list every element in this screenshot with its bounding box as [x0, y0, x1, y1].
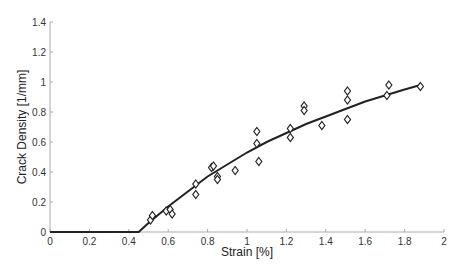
x-tick-label: 0.2: [82, 236, 96, 247]
data-point-diamond-icon: [344, 96, 350, 104]
x-tick-label: 1.2: [279, 236, 293, 247]
data-point-diamond-icon: [386, 81, 392, 89]
fit-curve: [50, 85, 420, 232]
y-tick-label: 1.4: [32, 17, 46, 28]
y-axis-label: Crack Density [1/mm]: [15, 70, 29, 185]
x-tick-label: 1.6: [358, 236, 372, 247]
x-tick-label: 1.4: [319, 236, 333, 247]
axes: 00.20.40.60.811.21.41.61.8200.20.40.60.8…: [32, 17, 447, 248]
y-tick-label: 1: [40, 77, 46, 88]
x-tick-label: 1.8: [398, 236, 412, 247]
x-tick-label: 0.4: [122, 236, 136, 247]
data-points: [147, 81, 423, 224]
data-point-diamond-icon: [193, 191, 199, 199]
y-tick-label: 0.2: [32, 197, 46, 208]
data-point-diamond-icon: [232, 167, 238, 175]
y-tick-label: 1.2: [32, 47, 46, 58]
data-point-diamond-icon: [287, 134, 293, 142]
data-point-diamond-icon: [319, 122, 325, 130]
data-point-diamond-icon: [384, 92, 390, 100]
data-point-diamond-icon: [344, 87, 350, 95]
data-point-diamond-icon: [344, 116, 350, 124]
y-tick-label: 0.6: [32, 137, 46, 148]
x-tick-label: 0: [47, 236, 53, 247]
chart: 00.20.40.60.811.21.41.61.8200.20.40.60.8…: [0, 0, 465, 274]
y-tick-label: 0.4: [32, 167, 46, 178]
y-tick-label: 0: [40, 227, 46, 238]
x-tick-label: 0.8: [201, 236, 215, 247]
data-point-diamond-icon: [417, 83, 423, 91]
x-tick-label: 2: [441, 236, 447, 247]
x-tick-label: 0.6: [161, 236, 175, 247]
data-point-diamond-icon: [254, 128, 260, 136]
x-axis-label: Strain [%]: [221, 245, 273, 259]
y-tick-label: 0.8: [32, 107, 46, 118]
data-point-diamond-icon: [256, 158, 262, 166]
